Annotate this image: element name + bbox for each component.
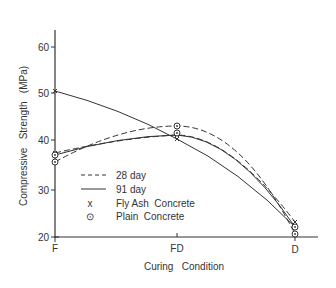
legend-x-marker-icon: x <box>88 198 93 209</box>
y-tick-20: 20 <box>38 232 50 243</box>
y-tick-50: 50 <box>38 88 50 99</box>
x-axis-title: Curing Condition <box>144 261 224 272</box>
y-tick-40: 40 <box>38 135 50 146</box>
legend: 28 day 91 day x Fly Ash Concrete ⊙ Plain… <box>81 170 195 222</box>
strength-chart: 60 50 40 30 20 F FD D Compressive Streng… <box>0 0 336 288</box>
x-tick-d: D <box>291 244 298 255</box>
legend-plain: Plain Concrete <box>116 211 185 222</box>
x-tick-fd: FD <box>170 243 183 254</box>
x-tick-f: F <box>52 243 58 254</box>
legend-circle-marker-icon: ⊙ <box>86 211 94 222</box>
y-tick-30: 30 <box>38 185 50 196</box>
legend-28day: 28 day <box>116 170 146 181</box>
y-axis-title: Compressive Strength (MPa) <box>18 66 29 206</box>
legend-flyash: Fly Ash Concrete <box>116 198 195 209</box>
y-tick-60: 60 <box>38 42 50 53</box>
legend-91day: 91 day <box>116 184 146 195</box>
